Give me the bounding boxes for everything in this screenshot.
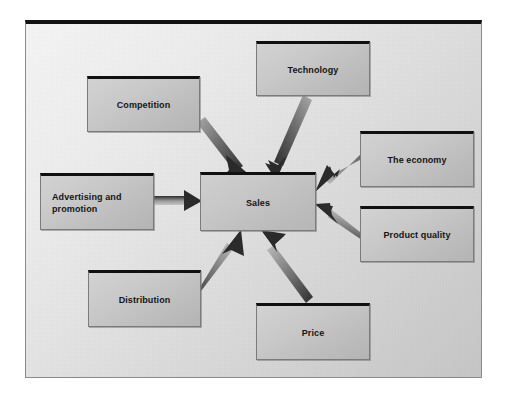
arrow-competition-to-sales xyxy=(197,117,252,179)
node-the-economy[interactable]: The economy xyxy=(360,131,474,187)
arrow-product-quality-to-sales xyxy=(315,203,362,240)
arrow-technology-to-sales xyxy=(265,95,312,180)
node-product-quality-label: Product quality xyxy=(383,229,450,241)
node-competition[interactable]: Competition xyxy=(87,76,200,132)
node-advertising-and-promotion-label: Advertising and promotion xyxy=(52,191,122,215)
node-product-quality[interactable]: Product quality xyxy=(360,206,474,262)
node-distribution[interactable]: Distribution xyxy=(88,270,201,327)
node-technology-label: Technology xyxy=(288,64,339,76)
diagram-canvas: Competition Technology The economy Produ… xyxy=(0,0,512,398)
node-competition-label: Competition xyxy=(117,99,171,111)
node-distribution-label: Distribution xyxy=(119,294,171,306)
node-technology[interactable]: Technology xyxy=(256,41,370,96)
arrow-price-to-sales xyxy=(261,230,313,303)
node-advertising-and-promotion[interactable]: Advertising and promotion xyxy=(40,173,154,230)
node-sales-label: Sales xyxy=(246,197,270,209)
arrow-economy-to-sales xyxy=(315,152,363,192)
arrow-advertising-to-sales xyxy=(154,190,202,211)
node-price[interactable]: Price xyxy=(256,303,370,360)
node-the-economy-label: The economy xyxy=(387,154,446,166)
node-price-label: Price xyxy=(302,327,325,339)
node-sales[interactable]: Sales xyxy=(200,172,316,231)
